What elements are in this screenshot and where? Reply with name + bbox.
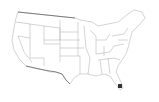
us-map [0,0,159,102]
location-marker[interactable] [118,84,122,88]
us-states-outline [0,0,159,102]
canada-border [18,12,75,18]
mexico-border [26,66,70,84]
